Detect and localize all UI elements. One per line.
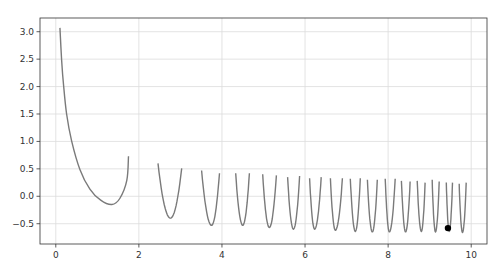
x-tick-label: 6	[302, 250, 308, 260]
curve-segment	[459, 183, 466, 233]
curve-segment	[330, 178, 342, 230]
marker-points	[445, 225, 451, 231]
data-point-marker	[445, 225, 451, 231]
y-tick-label: −0.5	[12, 219, 34, 229]
plot-lines	[60, 28, 466, 233]
curve-segment	[158, 163, 182, 218]
x-tick-label: 10	[465, 250, 477, 260]
y-tick-label: 0.5	[20, 164, 34, 174]
y-tick-label: 1.5	[20, 109, 34, 119]
axes-frame	[40, 18, 487, 244]
curve-segment	[310, 177, 322, 229]
y-axis-ticks: −0.50.00.51.01.52.02.53.0	[12, 27, 40, 229]
gridlines	[40, 18, 487, 244]
y-tick-label: 1.0	[20, 136, 35, 146]
curve-segment	[263, 174, 277, 227]
x-tick-label: 0	[53, 250, 59, 260]
curve-segment	[202, 171, 220, 226]
curve-segment	[401, 181, 410, 232]
x-tick-label: 8	[385, 250, 391, 260]
x-tick-label: 4	[219, 250, 225, 260]
chart: 0246810 −0.50.00.51.01.52.02.53.0	[0, 0, 503, 275]
y-tick-label: 3.0	[20, 27, 35, 37]
y-tick-label: 0.0	[20, 191, 35, 201]
x-tick-label: 2	[136, 250, 142, 260]
curve-segment	[60, 28, 129, 205]
curve-segment	[236, 173, 250, 225]
curve-segment	[288, 176, 300, 229]
y-tick-label: 2.5	[20, 54, 34, 64]
x-axis-ticks: 0246810	[53, 244, 477, 260]
y-tick-label: 2.0	[20, 82, 35, 92]
